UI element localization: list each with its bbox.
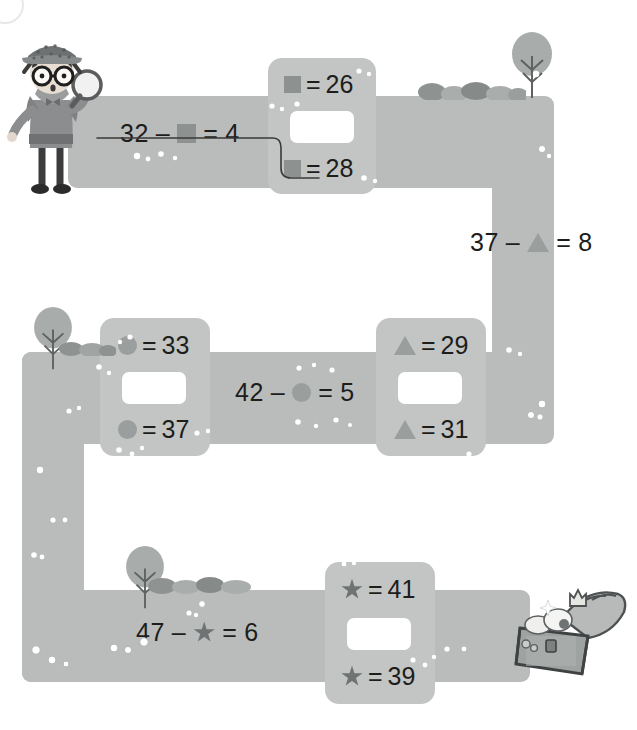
equals-sign: = [318, 378, 333, 407]
triangle-icon [394, 420, 416, 439]
flower-decoration-icon [336, 555, 366, 573]
choice-square-26[interactable]: = 26 [284, 70, 353, 99]
rock-row-icon [148, 572, 256, 594]
equals-sign: = [556, 228, 571, 257]
equation-circle: 42 – = 5 [235, 378, 355, 407]
flower-decoration-icon [404, 648, 444, 674]
flower-decoration-icon [522, 395, 556, 429]
triangle-icon [394, 336, 416, 355]
equation-right-number: 6 [244, 618, 258, 647]
page-corner-marker [0, 0, 24, 24]
circle-icon [292, 383, 311, 402]
equals-sign: = [222, 618, 237, 647]
rock-row-icon [418, 74, 526, 100]
choice-star-41[interactable]: = 41 [341, 575, 415, 604]
equation-right-number: 4 [225, 119, 239, 148]
minus-sign: – [172, 618, 186, 647]
flower-decoration-icon [352, 62, 382, 82]
equation-left-number: 42 [235, 378, 264, 407]
flower-decoration-icon [440, 640, 480, 658]
choice-value: 28 [326, 154, 354, 183]
flower-decoration-icon [460, 444, 494, 468]
flower-decoration-icon [288, 408, 358, 434]
choice-pad-star[interactable]: = 41 = 39 [325, 562, 435, 704]
flower-decoration-icon [24, 640, 84, 676]
equals-sign: = [421, 415, 436, 444]
equals-sign: = [203, 119, 218, 148]
circle-icon [118, 420, 137, 439]
equation-triangle: 37 – = 8 [470, 228, 593, 257]
flower-decoration-icon [180, 596, 220, 622]
road-segment-bottom-horizontal [22, 590, 530, 682]
choice-value: 26 [326, 70, 354, 99]
flower-decoration-icon [91, 358, 121, 380]
flower-decoration-icon [500, 340, 530, 362]
flower-decoration-icon [60, 400, 94, 424]
flower-decoration-icon [533, 140, 557, 162]
star-icon [341, 666, 363, 688]
flower-decoration-icon [108, 330, 138, 354]
flower-decoration-icon [264, 96, 310, 116]
choice-triangle-29[interactable]: = 29 [394, 331, 468, 360]
equals-sign: = [421, 331, 436, 360]
treasure-chest-icon [500, 578, 632, 678]
choice-value: 31 [441, 415, 469, 444]
minus-sign: – [506, 228, 520, 257]
choice-value: 33 [162, 331, 190, 360]
equals-sign: = [142, 331, 157, 360]
triangle-icon [527, 233, 549, 252]
star-icon [193, 622, 215, 644]
choice-value: 37 [162, 415, 190, 444]
choice-triangle-31[interactable]: = 31 [394, 415, 468, 444]
equation-right-number: 8 [578, 228, 592, 257]
detective-character-icon [2, 30, 104, 202]
star-icon [341, 579, 363, 601]
flower-decoration-icon [455, 263, 475, 281]
choice-value: 41 [388, 575, 416, 604]
worksheet-page: = 26 = 28 = 33 = 37 = 29 [0, 0, 637, 730]
equals-sign: = [306, 154, 321, 183]
equation-left-number: 37 [470, 228, 499, 257]
answer-box-star[interactable] [347, 618, 411, 650]
flower-decoration-icon [28, 460, 58, 490]
flower-decoration-icon [128, 140, 188, 166]
choice-square-28[interactable]: = 28 [284, 154, 353, 183]
flower-decoration-icon [104, 630, 164, 664]
flower-decoration-icon [188, 423, 218, 443]
flower-decoration-icon [380, 300, 414, 324]
choice-value: 29 [441, 331, 469, 360]
flower-decoration-icon [356, 168, 388, 188]
answer-box-circle[interactable] [122, 372, 186, 404]
equals-sign: = [306, 70, 321, 99]
flower-decoration-icon [26, 545, 56, 569]
choice-pad-triangle[interactable]: = 29 = 31 [376, 318, 486, 456]
equals-sign: = [368, 662, 383, 691]
square-icon [284, 76, 301, 93]
minus-sign: – [271, 378, 285, 407]
flower-decoration-icon [528, 64, 554, 90]
flower-decoration-icon [110, 438, 150, 464]
answer-box-triangle[interactable] [398, 372, 462, 404]
flower-decoration-icon [44, 510, 74, 534]
equals-sign: = [368, 575, 383, 604]
flower-decoration-icon [290, 358, 346, 380]
square-icon [284, 160, 301, 177]
equation-right-number: 5 [340, 378, 354, 407]
